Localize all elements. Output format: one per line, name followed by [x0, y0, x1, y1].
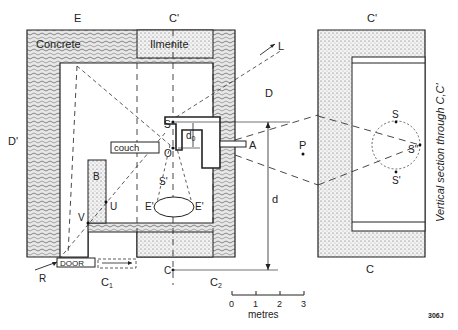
label-ilmenite: Ilmenite	[150, 38, 189, 50]
scale-tick-1: 1	[253, 299, 258, 309]
label-U: U	[110, 201, 117, 212]
section-label-C: C	[366, 263, 374, 275]
section-label-S: S	[392, 109, 399, 120]
label-P: P	[299, 139, 306, 151]
scale-tick-0: 0	[229, 299, 234, 309]
figure-id: 306J	[428, 312, 444, 319]
plan-view: E C' Concrete Ilmenite L D D' couch S O …	[8, 12, 318, 289]
label-R: R	[39, 273, 46, 284]
label-C: C	[164, 265, 171, 276]
section-label-C-prime: C'	[367, 12, 377, 24]
vertical-section: C' C S S" S' Vertical section through C,…	[318, 12, 446, 275]
label-O: O	[164, 148, 172, 159]
label-concrete: Concrete	[36, 38, 81, 50]
label-S-prime: S'	[159, 176, 168, 187]
scale-bar: 0 1 2 3 metres	[229, 291, 306, 320]
scale-unit: metres	[248, 309, 279, 320]
scale-tick-2: 2	[277, 299, 282, 309]
label-E-prime-left: E'	[145, 201, 154, 212]
label-S: S	[164, 119, 171, 130]
label-D: D	[265, 87, 273, 99]
ilmenite-block-bottom	[137, 232, 213, 257]
label-C-prime-top: C'	[169, 12, 179, 24]
section-caption: Vertical section through C,C'	[434, 82, 446, 222]
label-D-prime: D'	[8, 135, 18, 147]
label-d: d	[272, 193, 278, 205]
gantry-arm-A	[220, 141, 246, 147]
shielded-room-diagram: E C' Concrete Ilmenite L D D' couch S O …	[0, 0, 458, 330]
section-label-S-double-prime: S"	[408, 144, 419, 155]
label-A: A	[249, 139, 257, 151]
label-couch: couch	[114, 142, 139, 153]
label-L: L	[278, 40, 284, 52]
label-V: V	[78, 212, 85, 223]
label-C1: C1	[101, 276, 113, 289]
beam-field-ellipse	[154, 197, 194, 217]
label-B: B	[93, 171, 100, 182]
label-E-prime-right: E'	[195, 201, 204, 212]
label-E: E	[74, 12, 81, 24]
section-label-S-prime: S'	[392, 175, 401, 186]
label-C2: C2	[210, 276, 222, 289]
label-door: DOOR	[60, 259, 84, 268]
scale-tick-3: 3	[301, 299, 306, 309]
